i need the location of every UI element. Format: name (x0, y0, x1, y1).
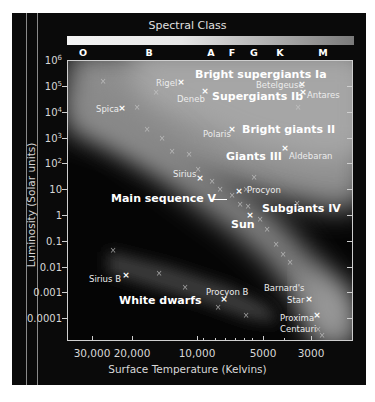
y-tick-mark-right (347, 267, 353, 268)
star-marker: × (118, 104, 126, 113)
y-tick-label: 0.01 (40, 262, 62, 273)
star-marker-faint: × (295, 104, 302, 112)
y-tick-base: 10 (45, 158, 58, 169)
y-axis-label: Luminosity (Solar units) (25, 143, 37, 268)
y-tick-label: 103 (45, 132, 62, 144)
region-label: Giants III (226, 151, 282, 162)
x-tick-mark (263, 336, 264, 341)
y-tick-base: 0.01 (40, 262, 62, 273)
star-marker-faint: × (217, 186, 224, 194)
x-minor-tick (235, 338, 236, 341)
star-marker: × (235, 187, 243, 196)
region-label: Supergiants Ib (212, 91, 303, 102)
star-name-label: Procyon B (206, 288, 248, 297)
y-tick-base: 10 (45, 133, 58, 144)
star-name-label: Procyon (247, 186, 281, 195)
main-sequence-pointer-line (210, 199, 227, 200)
star-marker: × (177, 78, 185, 87)
star-marker-faint: × (273, 241, 280, 249)
region-label: Bright giants II (242, 124, 335, 135)
y-tick-mark-right (347, 112, 353, 113)
y-tick-mark-right (347, 138, 353, 139)
star-marker-faint: × (110, 247, 117, 255)
y-tick-mark (62, 215, 67, 216)
star-marker-faint: × (280, 251, 287, 259)
x-minor-tick (284, 338, 285, 341)
y-tick-label: 0.001 (33, 287, 62, 298)
x-minor-tick (215, 338, 216, 341)
spectral-class-b: B (145, 47, 152, 58)
y-tick-mark (62, 163, 67, 164)
region-label: Sun (231, 219, 255, 230)
y-tick-mark-right (347, 241, 353, 242)
star-name-label: Star (287, 296, 304, 305)
star-marker-faint: × (237, 201, 244, 209)
region-label: Bright supergiants Ia (195, 69, 327, 80)
star-marker-faint: × (209, 178, 216, 186)
star-marker: × (196, 174, 204, 183)
star-name-label: Spica (96, 105, 119, 114)
star-marker-faint: × (182, 284, 189, 292)
y-tick-label: 0.1 (46, 236, 62, 247)
y-tick-mark (62, 189, 67, 190)
x-tick-mark (132, 336, 133, 341)
star-name-label: Aldebaran (289, 152, 333, 161)
star-marker-faint: × (100, 78, 107, 86)
y-tick-base: 0.0001 (27, 313, 62, 324)
y-tick-base: 10 (49, 184, 62, 195)
x-tick-label: 3000 (298, 347, 325, 359)
y-tick-base: 10 (45, 55, 58, 66)
spectral-class-a: A (207, 47, 214, 58)
y-tick-mark-right (347, 318, 353, 319)
star-marker-faint: × (287, 259, 294, 267)
y-tick-base: 10 (45, 81, 58, 92)
star-marker: × (122, 271, 130, 280)
x-axis-label: Surface Temperature (Kelvins) (0, 363, 375, 375)
x-tick-mark (92, 336, 93, 341)
x-minor-tick (244, 338, 245, 341)
y-tick-mark-right (347, 189, 353, 190)
region-label: Main sequence V (111, 193, 216, 204)
y-tick-mark-right (347, 163, 353, 164)
y-tick-mark-right (347, 292, 353, 293)
x-tick-label: 30,000 (74, 347, 111, 359)
y-tick-label: 0.0001 (27, 313, 62, 324)
spectral-class-m: M (318, 47, 327, 58)
star-marker-faint: × (186, 151, 193, 159)
star-marker-faint: × (169, 148, 176, 156)
star-name-label: Betelgeuse (256, 81, 304, 90)
y-tick-mark (62, 318, 67, 319)
region-label: White dwarfs (119, 295, 202, 306)
star-name-label: Deneb (177, 95, 205, 104)
star-marker-faint: × (264, 226, 271, 234)
x-tick-label: 5000 (250, 347, 277, 359)
frame-line-inner (37, 13, 38, 385)
y-tick-label: 106 (45, 54, 62, 66)
y-tick-base: 0.1 (46, 236, 62, 247)
x-tick-label: 10,000 (179, 347, 216, 359)
star-marker: × (305, 295, 313, 304)
y-tick-label: 104 (45, 106, 62, 118)
y-tick-base: 0.001 (33, 287, 62, 298)
y-tick-mark (62, 112, 67, 113)
star-marker-faint: × (215, 304, 222, 312)
x-minor-tick (252, 338, 253, 341)
star-marker: × (281, 144, 289, 153)
star-marker-faint: × (251, 174, 258, 182)
star-marker-faint: × (156, 270, 163, 278)
y-tick-mark (62, 267, 67, 268)
y-tick-base: 10 (45, 107, 58, 118)
chart-title: Spectral Class (0, 19, 375, 32)
y-tick-mark (62, 292, 67, 293)
y-tick-mark-right (347, 86, 353, 87)
star-name-label: Rigel (156, 79, 177, 88)
y-tick-label: 102 (45, 157, 62, 169)
y-tick-mark (62, 241, 67, 242)
x-tick-mark (311, 336, 312, 341)
star-marker-faint: × (159, 135, 166, 143)
y-tick-exponent: 6 (58, 54, 62, 62)
spectral-class-k: K (276, 47, 283, 58)
spectral-class-g: G (250, 47, 258, 58)
x-minor-tick (203, 338, 204, 341)
star-marker-faint: × (243, 312, 250, 320)
